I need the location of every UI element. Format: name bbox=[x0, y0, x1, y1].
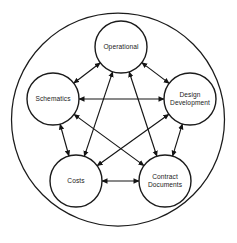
node-costs[interactable]: Costs bbox=[50, 155, 102, 207]
link-operational-to-design-development bbox=[142, 63, 169, 84]
link-operational-to-contract-documents bbox=[129, 72, 157, 157]
node-label-schematics: Schematics bbox=[35, 95, 71, 102]
nodes-layer: OperationalDesignDevelopmentContractDocu… bbox=[27, 21, 216, 207]
link-operational-to-schematics bbox=[74, 63, 101, 83]
link-operational-to-costs bbox=[84, 72, 112, 157]
diagram-canvas: OperationalDesignDevelopmentContractDocu… bbox=[0, 0, 237, 243]
node-label-contract-documents: Contract bbox=[152, 173, 178, 180]
diagram-root: OperationalDesignDevelopmentContractDocu… bbox=[0, 0, 237, 243]
node-schematics[interactable]: Schematics bbox=[27, 73, 79, 125]
node-operational[interactable]: Operational bbox=[95, 21, 147, 73]
node-label-design-development: Development bbox=[170, 99, 210, 107]
node-label-contract-documents: Documents bbox=[148, 181, 183, 188]
node-design-development[interactable]: DesignDevelopment bbox=[164, 73, 216, 125]
node-contract-documents[interactable]: ContractDocuments bbox=[139, 155, 191, 207]
node-label-costs: Costs bbox=[67, 177, 85, 184]
node-label-design-development: Design bbox=[179, 91, 200, 99]
node-label-operational: Operational bbox=[103, 43, 139, 51]
link-design-development-to-contract-documents bbox=[173, 124, 183, 156]
link-costs-to-schematics bbox=[60, 124, 69, 156]
